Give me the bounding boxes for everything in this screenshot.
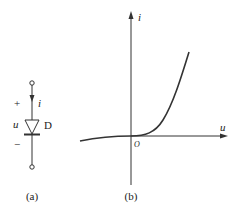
x-axis-label: u bbox=[220, 121, 226, 133]
voltage-label: u bbox=[13, 118, 19, 130]
caption-a: (a) bbox=[26, 190, 39, 203]
current-arrow-icon bbox=[30, 95, 35, 102]
diode-figure: + i u D − (a) i u O (b) bbox=[0, 0, 238, 214]
top-terminal bbox=[30, 81, 34, 85]
diode-circuit bbox=[24, 81, 40, 169]
y-axis-arrow-icon bbox=[129, 11, 134, 19]
y-axis-label: i bbox=[138, 11, 141, 23]
characteristic-curve bbox=[80, 52, 189, 141]
origin-label: O bbox=[134, 140, 140, 149]
diode-triangle-icon bbox=[25, 120, 39, 134]
diode-label: D bbox=[44, 119, 52, 131]
current-label: i bbox=[38, 97, 41, 109]
caption-b: (b) bbox=[125, 190, 138, 203]
minus-sign: − bbox=[14, 138, 20, 150]
iu-plot bbox=[80, 11, 228, 185]
bottom-terminal bbox=[30, 165, 34, 169]
x-axis-arrow-icon bbox=[220, 134, 228, 139]
plus-sign: + bbox=[14, 97, 20, 109]
